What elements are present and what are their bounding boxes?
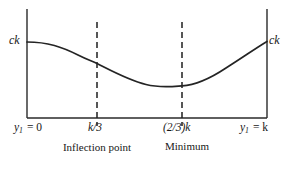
axis-label-y1-equals-0-subscript: 1 xyxy=(19,126,23,135)
curve-path xyxy=(27,42,267,87)
axis-label-two-thirds-k: (2/3)k xyxy=(163,122,190,134)
figure-container: ck ck y1 = 0 k/3 (2/3)k y1 = k Inflectio… xyxy=(0,0,300,187)
axis-label-y1-equals-0: y1 = 0 xyxy=(14,122,43,135)
axis-label-ck-left: ck xyxy=(9,34,20,46)
axis-label-y1-equals-k: y1 = k xyxy=(240,122,269,135)
axis-label-k-over-3: k/3 xyxy=(88,122,102,134)
annotation-inflection-point: Inflection point xyxy=(60,141,134,154)
axis-label-y1-equals-k-subscript: 1 xyxy=(245,126,249,135)
graph-canvas xyxy=(0,0,300,187)
axis-label-y1-equals-k-rest: = k xyxy=(252,121,269,133)
axis-label-ck-right: ck xyxy=(269,34,280,46)
axis-label-y1-equals-0-rest: = 0 xyxy=(26,121,43,133)
annotation-minimum: Minimum xyxy=(150,141,224,152)
